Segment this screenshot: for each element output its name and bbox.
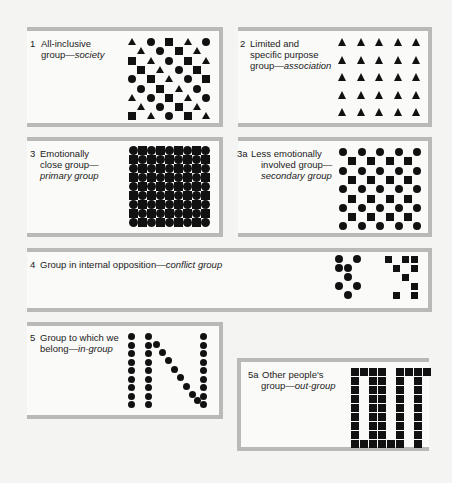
circle-icon — [159, 349, 166, 356]
triangle-icon — [375, 73, 383, 81]
conflict-group-pattern — [335, 255, 425, 305]
caption-line: specific purpose — [240, 49, 319, 60]
circle-icon — [128, 75, 136, 83]
circle-icon — [358, 204, 366, 212]
square-icon — [351, 368, 359, 376]
caption-out-group: 5aOther people's group—out-group — [248, 369, 335, 391]
triangle-icon — [128, 94, 136, 101]
circle-icon — [145, 333, 152, 340]
caption-line: close group— — [30, 159, 99, 170]
square-icon — [367, 195, 375, 203]
circle-icon — [145, 367, 152, 374]
circle-icon — [165, 357, 172, 364]
circle-icon — [165, 146, 174, 155]
circle-icon — [128, 350, 135, 357]
square-icon — [396, 440, 404, 448]
square-icon — [147, 75, 155, 83]
circle-icon — [183, 164, 192, 173]
circle-icon — [200, 384, 207, 391]
caption-line: Group to which we — [40, 332, 119, 343]
square-icon — [378, 404, 386, 412]
circle-icon — [147, 182, 156, 191]
square-icon — [396, 377, 404, 385]
square-icon — [201, 155, 210, 164]
circle-icon — [358, 185, 366, 193]
circle-icon — [128, 333, 135, 340]
circle-icon — [156, 191, 165, 200]
triangle-icon — [165, 75, 173, 82]
square-icon — [192, 200, 201, 209]
square-icon — [411, 256, 418, 263]
triangle-icon — [147, 57, 155, 64]
square-icon — [165, 191, 174, 200]
circle-icon — [147, 94, 155, 102]
circle-icon — [201, 164, 210, 173]
circle-icon — [200, 367, 207, 374]
caption-line: belong— — [30, 343, 78, 354]
square-icon — [404, 157, 412, 165]
square-icon — [396, 431, 404, 439]
square-icon — [138, 164, 147, 173]
square-icon — [369, 386, 377, 394]
square-icon — [175, 103, 183, 111]
square-icon — [405, 368, 413, 376]
circle-icon — [202, 94, 210, 102]
circle-icon — [156, 103, 164, 111]
circle-icon — [129, 182, 138, 191]
circle-icon — [174, 155, 183, 164]
caption-line: All-inclusive — [41, 38, 91, 49]
caption-line: Group in internal opposition— — [40, 259, 166, 270]
square-icon — [147, 209, 156, 218]
triangle-icon — [202, 112, 210, 119]
circle-icon — [145, 393, 152, 400]
circle-icon — [339, 204, 347, 212]
circle-icon — [376, 185, 384, 193]
square-icon — [386, 213, 394, 221]
circle-icon — [129, 164, 138, 173]
square-icon — [128, 112, 136, 120]
caption-term: association — [284, 60, 332, 71]
circle-icon — [201, 182, 210, 191]
square-icon — [367, 176, 375, 184]
square-icon — [165, 155, 174, 164]
circle-icon — [339, 222, 347, 230]
circle-icon — [145, 376, 152, 383]
circle-icon — [395, 222, 403, 230]
circle-icon — [156, 173, 165, 182]
square-icon — [396, 368, 404, 376]
triangle-icon — [412, 108, 420, 116]
square-icon — [183, 209, 192, 218]
circle-icon — [165, 200, 174, 209]
circle-icon — [128, 384, 135, 391]
circle-icon — [174, 173, 183, 182]
square-icon — [165, 38, 173, 46]
caption-term: in-group — [78, 343, 113, 354]
circle-icon — [358, 167, 366, 175]
circle-icon — [165, 112, 173, 120]
circle-icon — [156, 155, 165, 164]
square-icon — [156, 182, 165, 191]
circle-icon — [145, 359, 152, 366]
square-icon — [183, 191, 192, 200]
circle-icon — [192, 173, 201, 182]
square-icon — [183, 173, 192, 182]
circle-icon — [137, 85, 145, 93]
triangle-icon — [338, 108, 346, 116]
square-icon — [193, 66, 201, 74]
circle-icon — [138, 209, 147, 218]
square-icon — [348, 195, 356, 203]
square-icon — [165, 173, 174, 182]
square-icon — [367, 213, 375, 221]
caption-society: 1All-inclusive group—society — [30, 38, 104, 60]
circle-icon — [183, 383, 190, 390]
square-icon — [184, 112, 192, 120]
square-icon — [348, 176, 356, 184]
square-icon — [129, 191, 138, 200]
society-pattern — [128, 38, 212, 122]
triangle-icon — [412, 91, 420, 99]
circle-icon — [128, 342, 135, 349]
triangle-icon — [412, 56, 420, 64]
square-icon — [137, 66, 145, 74]
square-icon — [128, 57, 136, 65]
square-icon — [156, 200, 165, 209]
